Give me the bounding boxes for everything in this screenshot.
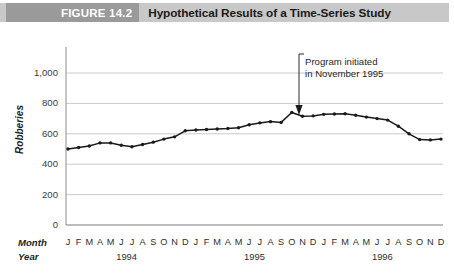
annotation-line-1: Program initiated (305, 56, 383, 68)
x-axis-year-label: 1995 (235, 251, 275, 262)
x-axis-year-label: 1994 (107, 251, 147, 262)
data-point (279, 121, 282, 124)
data-point (226, 127, 229, 130)
figure-number-badge: FIGURE 14.2 (6, 3, 139, 22)
data-point (258, 121, 261, 124)
data-point (322, 113, 325, 116)
x-axis-year-label: 1996 (362, 251, 402, 262)
data-point (354, 114, 357, 117)
annotation-arrow (295, 54, 304, 115)
data-point (205, 128, 208, 131)
data-point (269, 120, 272, 123)
data-point (290, 111, 293, 114)
data-point (66, 147, 69, 150)
data-point (237, 126, 240, 129)
data-point (429, 138, 432, 141)
gridlines (66, 73, 443, 225)
data-point (162, 137, 165, 140)
data-point (343, 112, 346, 115)
data-point (407, 132, 410, 135)
data-point (130, 145, 133, 148)
data-point (418, 138, 421, 141)
data-point (397, 125, 400, 128)
month-row-label: Month (18, 237, 47, 248)
data-point-markers (66, 111, 442, 151)
data-point (301, 115, 304, 118)
data-point (109, 141, 112, 144)
data-point (386, 118, 389, 121)
data-point (439, 137, 442, 140)
data-point (88, 144, 91, 147)
data-point (375, 117, 378, 120)
data-point (173, 135, 176, 138)
data-point (141, 143, 144, 146)
x-axis-month-label: D (435, 237, 447, 247)
data-point (216, 127, 219, 130)
data-point (98, 141, 101, 144)
data-point (120, 144, 123, 147)
data-point (247, 123, 250, 126)
data-point (184, 129, 187, 132)
data-point (365, 115, 368, 118)
figure-title: Hypothetical Results of a Time-Series St… (148, 6, 391, 20)
data-point (152, 140, 155, 143)
data-point (311, 114, 314, 117)
data-point (77, 146, 80, 149)
year-row-label: Year (18, 251, 38, 262)
annotation-line-2: in November 1995 (305, 68, 383, 80)
data-point (333, 112, 336, 115)
figure-header: FIGURE 14.2 Hypothetical Results of a Ti… (0, 3, 449, 22)
annotation-label: Program initiated in November 1995 (305, 56, 383, 80)
data-point (194, 128, 197, 131)
data-series-line (68, 113, 441, 150)
chart-container: Robberies 02004006008001,000 Program ini… (0, 24, 454, 278)
